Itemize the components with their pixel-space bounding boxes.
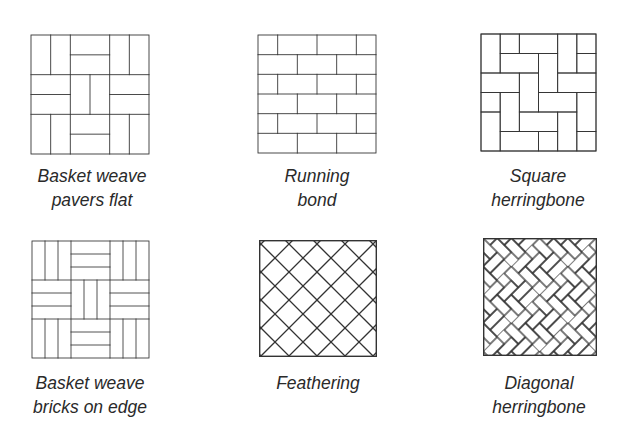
caption-line: bricks on edge [0,395,180,419]
caption-line: herringbone [448,188,628,212]
caption-line: Square [448,164,628,188]
caption-line: Diagonal [449,371,628,395]
caption-diagonal-herringbone: Diagonal herringbone [449,371,628,419]
caption-line: bond [227,188,407,212]
basket-weave-flat-diagram [31,35,149,154]
square-herringbone-diagram [481,34,596,151]
caption-running-bond: Running bond [227,164,407,212]
caption-feathering: Feathering [228,371,408,395]
caption-line: pavers flat [2,188,182,212]
caption-square-herringbone: Square herringbone [448,164,628,212]
caption-line: Basket weave [0,371,180,395]
running-bond-diagram [258,35,376,153]
caption-line: Running [227,164,407,188]
feathering-diagram [259,240,377,357]
caption-basket-weave-edge: Basket weave bricks on edge [0,371,180,419]
diagonal-herringbone-diagram [483,238,597,356]
caption-basket-weave-flat: Basket weave pavers flat [2,164,182,212]
basket-weave-edge-diagram [32,241,149,358]
caption-line: Feathering [228,371,408,395]
caption-line: Basket weave [2,164,182,188]
caption-line: herringbone [449,395,628,419]
